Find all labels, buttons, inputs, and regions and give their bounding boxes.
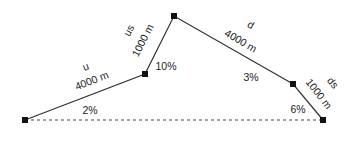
segment-ds-grade: 6% xyxy=(290,103,305,115)
segment-d-name: d xyxy=(245,18,256,31)
segment-u-grade: 2% xyxy=(82,104,97,116)
segment-us-name: us xyxy=(121,23,137,38)
segment-d-grade: 3% xyxy=(243,71,258,83)
road-profile-diagram: u 4000 m 2% us 1000 m 10% d 4000 m 3% ds… xyxy=(0,0,355,142)
node-end xyxy=(320,117,326,123)
segment-u-length: 4000 m xyxy=(73,68,110,92)
node-n3 xyxy=(290,81,296,87)
node-peak xyxy=(171,13,177,19)
segment-ds-name: ds xyxy=(325,74,341,90)
node-n1 xyxy=(142,71,148,77)
segment-us-grade: 10% xyxy=(155,60,176,72)
node-start xyxy=(22,117,28,123)
segment-u-name: u xyxy=(81,60,91,73)
segment-d-length: 4000 m xyxy=(223,27,260,55)
